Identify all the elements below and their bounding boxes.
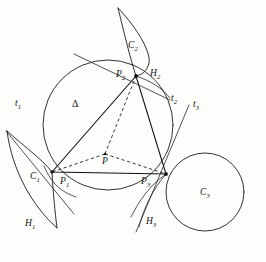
incenter-spoke-p2: [105, 76, 136, 154]
region-label-c1: C1: [30, 172, 40, 183]
vertex-label-p3: P3: [141, 177, 150, 188]
tangent-label-t2: t2: [171, 94, 177, 105]
region-label-c2: C2: [128, 41, 138, 52]
inscribed-triangle: [52, 76, 166, 174]
curve-label-h3: H3: [146, 217, 156, 228]
vertex-dot-incenter: [104, 153, 106, 155]
vertex-dot-p2: [134, 74, 138, 78]
region-c1-arc-inner: [52, 172, 57, 228]
incenter-label: P: [102, 157, 108, 167]
tangent-label-t1: t1: [15, 99, 21, 110]
vertex-label-p2: P2: [116, 70, 125, 81]
curve-label-h1: H1: [25, 219, 35, 230]
tangent-line-t3: [136, 105, 189, 232]
diagram-canvas: Δ P P1 P2 P3 C1 C2 C3 H1 H2 H3 t1 t2 t3: [0, 0, 266, 262]
vertex-dot-p1: [50, 170, 53, 173]
incenter-spoke-p3: [105, 154, 166, 174]
vertex-label-p1: P1: [60, 177, 69, 188]
vertex-dot-p3: [164, 172, 168, 176]
curve-label-h2: H2: [150, 69, 160, 80]
tangent-label-t3: t3: [193, 100, 199, 111]
triangle-label: Δ: [72, 99, 79, 109]
region-c1-arc-upper: [7, 131, 52, 172]
region-label-c3: C3: [200, 188, 210, 199]
